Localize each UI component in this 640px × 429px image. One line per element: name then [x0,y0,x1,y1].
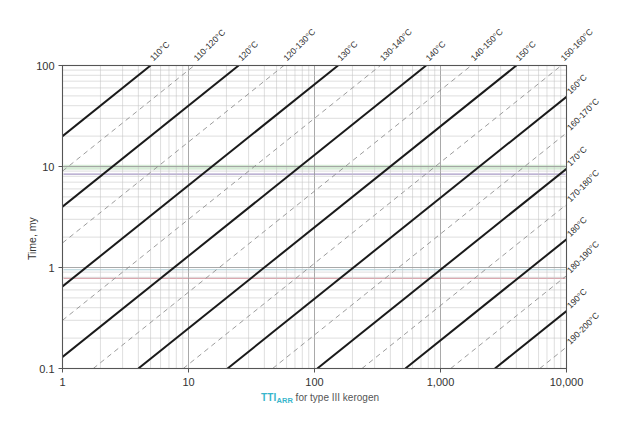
x-tick-label: 10 [182,376,194,388]
y-tick-label: 10 [42,161,54,173]
series-label-110-120-C: 110-120°C [192,27,228,63]
x-axis-title: TTIARR for type III kerogen [0,392,640,405]
series-label-110-C: 110°C [148,39,172,63]
series-label-140-C: 140°C [423,39,447,63]
x-tick-label: 1 [59,376,65,388]
series-label-150-160-C: 150-160°C [559,27,595,63]
series-label-130-140-C: 130-140°C [378,27,414,63]
x-tick-label: 1,000 [427,376,455,388]
series-label-170-C: 170°C [565,144,589,168]
series-label-180-C: 180°C [565,215,589,239]
x-tick-label: 100 [305,376,323,388]
series-label-140-150-C: 140-150°C [469,27,505,63]
chart-figure: 1101001,00010,0001001010.1110°C110-120°C… [0,0,640,429]
series-label-170-180-C: 170-180°C [565,168,601,204]
series-label-120-C: 120°C [236,39,260,63]
x-axis-title-subscript: ARR [277,396,293,405]
series-label-120-130-C: 120-130°C [281,27,317,63]
series-label-130-C: 130°C [335,39,359,63]
y-tick-label: 0.1 [39,363,54,375]
series-label-190-C: 190°C [565,286,589,310]
y-axis-title-text: Time, my [26,217,38,260]
y-tick-label: 100 [36,60,54,72]
x-tick-label: 10,000 [550,376,584,388]
series-label-150-C: 150°C [514,39,538,63]
series-label-160-C: 160°C [565,72,589,96]
series-label-160-170-C: 160-170°C [565,96,601,132]
y-tick-label: 1 [48,262,54,274]
series-label-180-190-C: 180-190°C [565,239,601,275]
x-axis-title-prefix: TTI [261,392,277,403]
x-axis-title-suffix: for type III kerogen [293,392,379,403]
chart-canvas: 1101001,00010,0001001010.1110°C110-120°C… [0,0,640,429]
series-label-190-200-C: 190-200°C [565,310,601,346]
y-axis-title: Time, my [26,217,38,260]
